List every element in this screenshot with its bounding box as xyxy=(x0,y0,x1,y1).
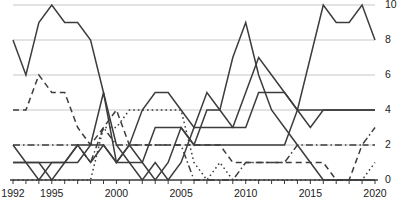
y-tick-label: 4 xyxy=(385,103,391,115)
x-tick-label: 1995 xyxy=(40,187,64,199)
y-tick-label: 10 xyxy=(385,0,397,10)
y-tick-labels: 0246810 xyxy=(385,0,397,185)
x-tick-label: 2000 xyxy=(105,187,129,199)
x-tick-label: 2020 xyxy=(363,187,387,199)
series-line-series-6 xyxy=(13,128,375,181)
y-tick-label: 6 xyxy=(385,68,391,80)
series-line-series-4 xyxy=(13,5,375,180)
series-line-series-2 xyxy=(13,93,375,181)
y-tick-label: 8 xyxy=(385,33,391,45)
x-tick-labels: 1992199520002005201020152020 xyxy=(1,187,387,199)
x-tick-label: 2010 xyxy=(234,187,258,199)
chart-canvas: 1992199520002005201020152020 0246810 xyxy=(0,0,404,208)
plot-lines xyxy=(13,5,375,180)
x-axis xyxy=(10,180,378,184)
x-tick-label: 1992 xyxy=(1,187,25,199)
line-chart: 1992199520002005201020152020 0246810 xyxy=(0,0,404,208)
x-tick-label: 2015 xyxy=(299,187,323,199)
series-line-series-1 xyxy=(13,5,375,163)
gridlines xyxy=(13,5,375,145)
y-tick-label: 0 xyxy=(385,173,391,185)
y-tick-label: 2 xyxy=(385,138,391,150)
x-tick-label: 2005 xyxy=(169,187,193,199)
